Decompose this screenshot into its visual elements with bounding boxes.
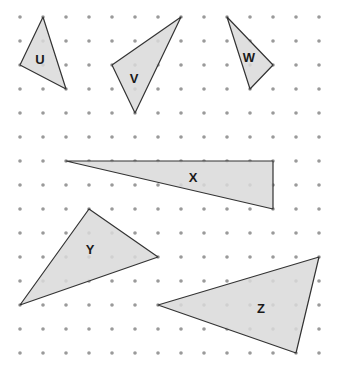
grid-dot [41, 183, 45, 187]
grid-dot [317, 183, 321, 187]
grid-dot [202, 279, 206, 283]
triangle-label: Z [257, 301, 265, 316]
grid-dot [133, 183, 137, 187]
grid-dot [87, 303, 91, 307]
grid-dot [110, 303, 114, 307]
grid-dot [110, 39, 114, 43]
grid-dot [271, 39, 275, 43]
grid-dot [133, 231, 137, 235]
grid-dot [271, 351, 275, 355]
grid-dot [64, 303, 68, 307]
grid-dot [64, 63, 68, 67]
grid-dot [64, 231, 68, 235]
grid-dot [18, 255, 22, 259]
grid-dot [156, 207, 160, 211]
grid-dot [133, 135, 137, 139]
triangle-shape [112, 17, 181, 113]
grid-dot [110, 15, 114, 19]
grid-dot [294, 207, 298, 211]
grid-dot [41, 87, 45, 91]
grid-dot [248, 231, 252, 235]
triangle-z: Z [158, 257, 319, 353]
grid-dot [87, 327, 91, 331]
grid-dot [18, 159, 22, 163]
grid-dot [156, 111, 160, 115]
dot-grid-diagram: UVWXYZ [0, 0, 339, 375]
grid-dot [41, 231, 45, 235]
grid-dot [317, 351, 321, 355]
grid-dot [41, 207, 45, 211]
grid-dot [179, 111, 183, 115]
grid-dot [18, 207, 22, 211]
grid-dot [317, 207, 321, 211]
grid-dot [225, 39, 229, 43]
grid-dot [179, 135, 183, 139]
grid-dot [202, 231, 206, 235]
grid-dot [64, 183, 68, 187]
grid-dot [87, 351, 91, 355]
grid-dot [317, 63, 321, 67]
grid-dot [18, 111, 22, 115]
grid-dot [202, 15, 206, 19]
grid-dot [294, 159, 298, 163]
grid-dot [18, 351, 22, 355]
grid-dot [248, 111, 252, 115]
grid-dot [156, 135, 160, 139]
grid-dot [294, 15, 298, 19]
grid-dot [317, 111, 321, 115]
grid-dot [133, 39, 137, 43]
triangle-shape [158, 257, 319, 353]
grid-dot [225, 351, 229, 355]
triangle-label: Y [86, 242, 95, 257]
grid-dot [294, 183, 298, 187]
grid-dot [225, 279, 229, 283]
grid-dot [179, 87, 183, 91]
grid-dot [271, 15, 275, 19]
grid-dot [18, 279, 22, 283]
grid-dot [133, 303, 137, 307]
grid-dot [179, 207, 183, 211]
grid-dot [271, 231, 275, 235]
grid-dot [225, 63, 229, 67]
grid-dot [64, 327, 68, 331]
triangle-w: W [227, 17, 273, 89]
grid-dot [179, 231, 183, 235]
triangle-shape [66, 161, 273, 209]
triangle-label: V [130, 71, 139, 86]
grid-dot [202, 207, 206, 211]
triangle-v: V [112, 17, 181, 113]
grid-dot [64, 15, 68, 19]
grid-dot [179, 327, 183, 331]
grid-dot [64, 351, 68, 355]
grid-dot [248, 135, 252, 139]
grid-dot [156, 327, 160, 331]
grid-dot [110, 135, 114, 139]
triangle-label: W [243, 50, 256, 65]
grid-dot [87, 135, 91, 139]
grid-dot [225, 135, 229, 139]
grid-dot [87, 183, 91, 187]
grid-dot [317, 279, 321, 283]
grid-dot [248, 351, 252, 355]
grid-dot [179, 279, 183, 283]
grid-dot [64, 39, 68, 43]
grid-dot [248, 15, 252, 19]
grid-dot [87, 87, 91, 91]
grid-dot [41, 303, 45, 307]
grid-dot [110, 351, 114, 355]
grid-dot [317, 87, 321, 91]
grid-dot [156, 279, 160, 283]
grid-dot [317, 15, 321, 19]
grid-dot [87, 63, 91, 67]
grid-dot [294, 87, 298, 91]
grid-dot [317, 159, 321, 163]
grid-dot [64, 135, 68, 139]
triangle-label: X [189, 170, 198, 185]
grid-dot [41, 135, 45, 139]
grid-dot [110, 111, 114, 115]
grid-dot [202, 351, 206, 355]
grid-dot [133, 15, 137, 19]
grid-dot [317, 303, 321, 307]
grid-dot [294, 135, 298, 139]
grid-dot [294, 255, 298, 259]
